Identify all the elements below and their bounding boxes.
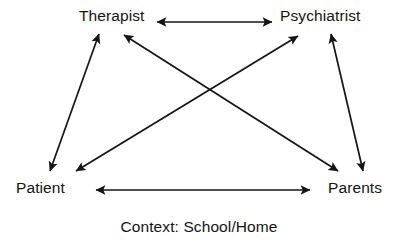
edge-parents-therapist — [124, 35, 338, 171]
edge-patient-psychiatrist — [76, 36, 298, 171]
diagram-caption: Context: School/Home — [0, 219, 398, 235]
relationship-diagram: Therapist Psychiatrist Patient Parents C… — [0, 0, 398, 245]
node-label-patient: Patient — [16, 180, 65, 196]
diagram-arrows-canvas — [0, 0, 398, 245]
node-label-parents: Parents — [328, 180, 382, 196]
node-label-psychiatrist: Psychiatrist — [280, 8, 360, 24]
edge-psychiatrist-parents — [331, 34, 363, 171]
edge-patient-therapist — [50, 34, 99, 171]
node-label-therapist: Therapist — [79, 8, 145, 24]
